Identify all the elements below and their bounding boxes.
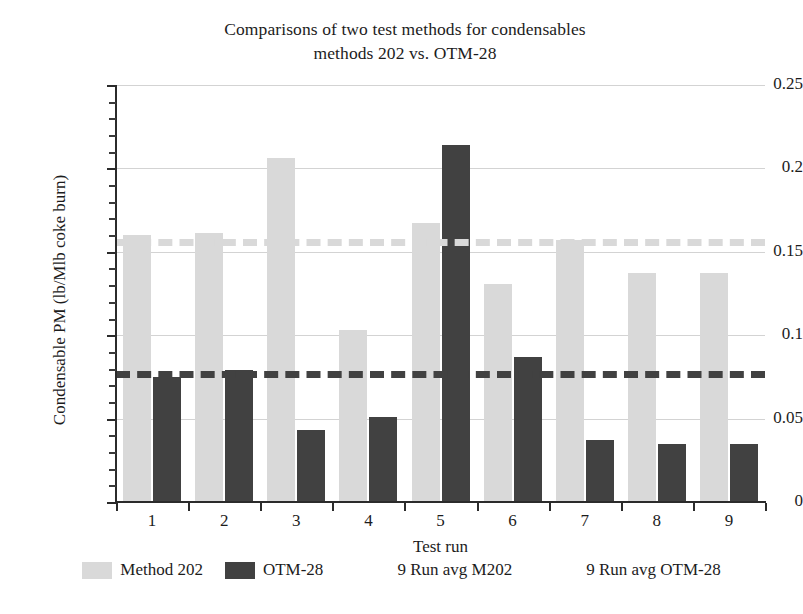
bar-otm-28-run-5: [442, 145, 470, 502]
x-axis-tick-label: 5: [416, 511, 466, 531]
bar-method-202-run-5: [412, 223, 440, 502]
x-axis-tick-label: 2: [199, 511, 249, 531]
y-axis-minor-tick: [109, 135, 116, 137]
y-axis-minor-tick: [109, 302, 116, 304]
x-axis-spine: [115, 501, 766, 503]
plot-area: [116, 85, 765, 502]
x-axis-tick: [693, 503, 695, 511]
legend-swatch-bar: [225, 562, 255, 579]
x-axis-tick-label: 4: [343, 511, 393, 531]
bar-otm-28-run-7: [586, 440, 614, 502]
bar-method-202-run-9: [700, 273, 728, 502]
y-axis-minor-tick: [109, 319, 116, 321]
y-axis-minor-tick: [109, 118, 116, 120]
y-axis-tick-label: 0.1: [703, 324, 803, 344]
gridline: [116, 168, 765, 169]
x-axis-tick: [549, 503, 551, 511]
y-axis-minor-tick: [109, 268, 116, 270]
legend-label: 9 Run avg OTM-28: [586, 560, 721, 580]
x-axis-tick: [765, 503, 767, 511]
legend-item: Method 202: [82, 560, 203, 580]
x-axis-tick: [260, 503, 262, 511]
x-axis-tick-label: 1: [127, 511, 177, 531]
y-axis-minor-tick: [109, 485, 116, 487]
x-axis-tick: [188, 503, 190, 511]
x-axis-tick: [404, 503, 406, 511]
legend-label: Method 202: [120, 560, 203, 580]
chart-legend: Method 202OTM-289 Run avg M2029 Run avg …: [0, 560, 803, 580]
legend-item: OTM-28: [225, 560, 323, 580]
bar-otm-28-run-4: [369, 417, 397, 502]
y-axis-major-tick: [107, 168, 116, 170]
chart-title-line-1: Comparisons of two test methods for cond…: [224, 19, 586, 39]
bar-otm-28-run-6: [514, 357, 542, 502]
bar-method-202-run-4: [339, 330, 367, 502]
y-axis-minor-tick: [109, 202, 116, 204]
y-axis-major-tick: [107, 252, 116, 254]
legend-swatch-bar: [82, 562, 112, 579]
y-axis-minor-tick: [109, 352, 116, 354]
x-axis-tick: [332, 503, 334, 511]
y-axis-major-tick: [107, 85, 116, 87]
average-line-otm-28: [116, 371, 765, 378]
y-axis-tick-label: 0.05: [703, 408, 803, 428]
bar-otm-28-run-2: [225, 370, 253, 502]
y-axis-minor-tick: [109, 218, 116, 220]
x-axis-tick: [477, 503, 479, 511]
y-axis-minor-tick: [109, 102, 116, 104]
y-axis-minor-tick: [109, 235, 116, 237]
y-axis-tick-label: 0.25: [703, 74, 803, 94]
x-axis-tick: [621, 503, 623, 511]
bar-otm-28-run-3: [297, 430, 325, 502]
y-axis-minor-tick: [109, 469, 116, 471]
y-axis-spine: [115, 85, 117, 503]
x-axis-tick-label: 9: [704, 511, 754, 531]
bar-otm-28-run-8: [658, 444, 686, 502]
y-axis-tick-label: 0.15: [703, 241, 803, 261]
bar-method-202-run-8: [628, 273, 656, 502]
legend-label: 9 Run avg M202: [397, 560, 512, 580]
bar-method-202-run-3: [267, 158, 295, 502]
x-axis-title: Test run: [116, 537, 765, 557]
x-axis-tick-label: 3: [271, 511, 321, 531]
chart-title-line-2: methods 202 vs. OTM-28: [120, 42, 690, 66]
bar-method-202-run-1: [123, 235, 151, 502]
legend-item: 9 Run avg OTM-28: [534, 560, 721, 580]
y-axis-minor-tick: [109, 402, 116, 404]
y-axis-major-tick: [107, 419, 116, 421]
x-axis-tick-label: 8: [632, 511, 682, 531]
x-axis-tick-label: 6: [488, 511, 538, 531]
y-axis-minor-tick: [109, 152, 116, 154]
legend-label: OTM-28: [263, 560, 323, 580]
chart-figure: Comparisons of two test methods for cond…: [0, 0, 803, 614]
y-axis-tick-label: 0.2: [703, 157, 803, 177]
bar-method-202-run-2: [195, 233, 223, 502]
y-axis-minor-tick: [109, 435, 116, 437]
average-line-m202: [116, 239, 765, 246]
x-axis-tick: [116, 503, 118, 511]
y-axis-title: Condensable PM (lb/Mlb coke burn): [50, 90, 70, 510]
bar-method-202-run-6: [484, 284, 512, 503]
gridline: [116, 85, 765, 86]
x-axis-tick-label: 7: [560, 511, 610, 531]
chart-title: Comparisons of two test methods for cond…: [120, 18, 690, 66]
y-axis-minor-tick: [109, 185, 116, 187]
y-axis-major-tick: [107, 335, 116, 337]
y-axis-minor-tick: [109, 452, 116, 454]
y-axis-minor-tick: [109, 369, 116, 371]
legend-item: 9 Run avg M202: [345, 560, 512, 580]
y-axis-minor-tick: [109, 385, 116, 387]
y-axis-minor-tick: [109, 285, 116, 287]
bar-otm-28-run-1: [153, 377, 181, 502]
